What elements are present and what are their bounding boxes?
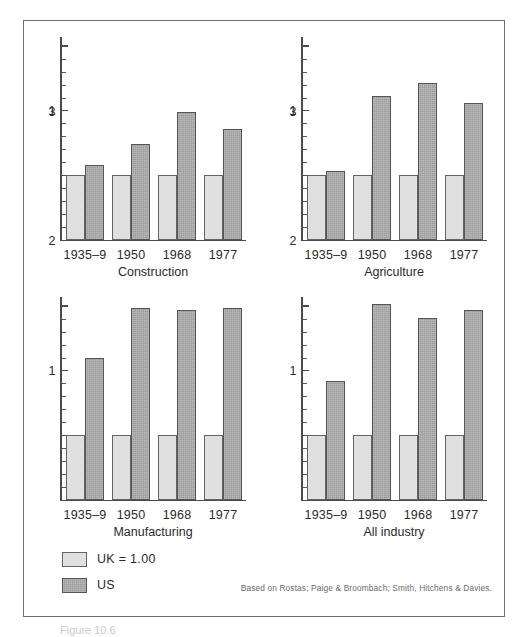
bar-us	[418, 318, 437, 500]
x-axis-labels: 1935–9195019681977	[303, 508, 487, 522]
x-axis-labels: 1935–9195019681977	[303, 248, 487, 262]
x-axis-labels: 1935–9195019681977	[62, 248, 246, 262]
bar-us	[223, 129, 242, 240]
bar-group-container	[303, 37, 487, 240]
chart-panel-manufacturing: 123 1935–9195019681977 Manufacturing	[24, 281, 265, 541]
bar-us	[131, 308, 150, 500]
bar-group	[353, 297, 391, 500]
x-axis-tick-label: 1935–9	[303, 248, 349, 262]
bar-group	[158, 297, 196, 500]
bar-uk	[158, 435, 177, 500]
x-axis-tick-label: 1950	[349, 508, 395, 522]
x-axis-line	[60, 500, 246, 502]
panel-title-manufacturing: Manufacturing	[60, 525, 246, 539]
legend-label-uk: UK = 1.00	[97, 552, 156, 566]
bar-uk	[158, 175, 177, 240]
chart-panel-agriculture: 123 1935–9195019681977 Agriculture	[265, 21, 506, 281]
bar-uk	[445, 435, 464, 500]
bar-group	[204, 297, 242, 500]
bar-group	[399, 37, 437, 240]
x-axis-tick-label: 1968	[154, 508, 200, 522]
bar-us	[177, 112, 196, 240]
x-axis-tick-label: 1977	[441, 248, 487, 262]
x-axis-tick-label: 1968	[395, 508, 441, 522]
chart-panel-all-industry: 123 1935–9195019681977 All industry	[265, 281, 506, 541]
y-axis-tick-label: 1	[290, 365, 297, 378]
bar-uk	[399, 175, 418, 240]
bar-group	[66, 37, 104, 240]
bar-group-container	[303, 297, 487, 500]
y-axis-tick-label: 3	[49, 106, 56, 119]
x-axis-line	[301, 500, 487, 502]
bar-us	[372, 96, 391, 240]
bar-group	[204, 37, 242, 240]
bar-uk	[399, 435, 418, 500]
plot-area-manufacturing: 123 1935–9195019681977	[60, 297, 246, 501]
plot-area-agriculture: 123 1935–9195019681977	[301, 37, 487, 241]
y-axis-tick-label: 2	[290, 236, 297, 249]
bar-group	[112, 37, 150, 240]
x-axis-tick-label: 1950	[108, 248, 154, 262]
bar-us	[85, 165, 104, 239]
bar-group	[445, 37, 483, 240]
bar-uk	[353, 175, 372, 240]
bar-us	[131, 144, 150, 240]
bar-group	[445, 297, 483, 500]
x-axis-tick-label: 1977	[200, 248, 246, 262]
y-axis-tick-label: 3	[290, 106, 297, 119]
bar-us	[372, 304, 391, 500]
bar-group-container	[62, 297, 246, 500]
bar-group	[158, 37, 196, 240]
bar-us	[326, 171, 345, 240]
legend-item-uk: UK = 1.00	[62, 546, 262, 572]
x-axis-tick-label: 1977	[441, 508, 487, 522]
bar-us	[85, 358, 104, 499]
bar-uk	[112, 435, 131, 500]
bar-uk	[353, 435, 372, 500]
panel-grid: 123 1935–9195019681977 Construction 123 …	[24, 21, 506, 541]
bar-uk	[112, 175, 131, 240]
y-axis-tick-label: 2	[49, 236, 56, 249]
x-axis-tick-label: 1935–9	[303, 508, 349, 522]
bar-group	[353, 37, 391, 240]
bar-group-container	[62, 37, 246, 240]
x-axis-line	[301, 240, 487, 242]
bar-uk	[66, 435, 85, 500]
legend-swatch-us	[62, 578, 87, 593]
panel-title-construction: Construction	[60, 265, 246, 279]
y-axis-tick-label: 1	[49, 365, 56, 378]
legend-item-us: US	[62, 572, 262, 598]
bar-group	[307, 297, 345, 500]
figure-frame: 123 1935–9195019681977 Construction 123 …	[23, 20, 505, 617]
plot-area-all-industry: 123 1935–9195019681977	[301, 297, 487, 501]
panel-title-agriculture: Agriculture	[301, 265, 487, 279]
bar-us	[223, 308, 242, 499]
x-axis-tick-label: 1950	[108, 508, 154, 522]
x-axis-tick-label: 1935–9	[62, 248, 108, 262]
bar-uk	[307, 435, 326, 500]
chart-legend: UK = 1.00 US	[62, 546, 262, 598]
bar-group	[66, 297, 104, 500]
bar-uk	[445, 175, 464, 240]
chart-panel-construction: 123 1935–9195019681977 Construction	[24, 21, 265, 281]
bar-uk	[204, 435, 223, 500]
bar-uk	[307, 175, 326, 240]
bar-us	[326, 381, 345, 500]
figure-caption: Figure 10.6	[60, 624, 116, 637]
bar-us	[177, 310, 196, 499]
x-axis-tick-label: 1977	[200, 508, 246, 522]
source-note: Based on Rostas; Paige & Broombach; Smit…	[241, 583, 492, 593]
x-axis-labels: 1935–9195019681977	[62, 508, 246, 522]
x-axis-tick-label: 1950	[349, 248, 395, 262]
bar-group	[112, 297, 150, 500]
bar-uk	[204, 175, 223, 240]
bar-group	[307, 37, 345, 240]
x-axis-line	[60, 240, 246, 242]
bar-us	[464, 103, 483, 240]
bar-group	[399, 297, 437, 500]
panel-title-all-industry: All industry	[301, 525, 487, 539]
bar-us	[464, 310, 483, 500]
legend-swatch-uk	[62, 552, 87, 567]
bar-uk	[66, 175, 85, 240]
legend-label-us: US	[97, 578, 115, 592]
